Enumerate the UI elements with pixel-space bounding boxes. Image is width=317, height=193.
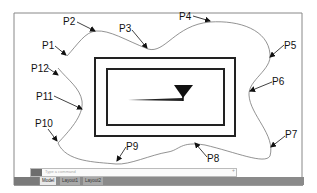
point-label-p6: P6: [250, 76, 285, 91]
svg-text:P3: P3: [119, 23, 132, 34]
inner-rectangle[interactable]: [107, 69, 224, 125]
tab-layout2[interactable]: Layout2: [83, 177, 103, 185]
tab-navigation-arrows[interactable]: [14, 177, 39, 185]
svg-text:P5: P5: [284, 40, 297, 51]
point-label-p8: P8: [195, 143, 220, 164]
drawing-canvas[interactable]: P1 P2 P3 P4 P5 P6 P7 P8 P9 P10 P11: [0, 0, 317, 193]
point-label-p9: P9: [117, 141, 139, 161]
command-options-button[interactable]: [31, 169, 42, 176]
svg-text:P12: P12: [31, 63, 49, 74]
tab-model[interactable]: Model: [40, 177, 56, 185]
svg-text:P10: P10: [35, 118, 53, 129]
svg-text:P6: P6: [272, 76, 285, 87]
tab-layout1[interactable]: Layout1: [60, 177, 80, 185]
point-label-p5: P5: [270, 40, 297, 57]
point-label-p11: P11: [36, 91, 82, 109]
command-expand-icon[interactable]: +: [232, 167, 235, 173]
point-label-p3: P3: [119, 23, 147, 48]
command-line[interactable]: Type a command +: [30, 168, 237, 177]
command-input[interactable]: Type a command: [45, 168, 76, 176]
point-label-p7: P7: [271, 129, 298, 147]
svg-text:P8: P8: [207, 153, 220, 164]
point-label-p2: P2: [63, 16, 95, 31]
leader-line[interactable]: [128, 98, 183, 101]
point-label-p1: P1: [42, 40, 66, 55]
svg-text:P11: P11: [36, 91, 53, 102]
svg-text:P7: P7: [285, 129, 298, 140]
point-label-p10: P10: [35, 118, 57, 141]
svg-text:P2: P2: [63, 16, 76, 27]
svg-text:P1: P1: [42, 40, 55, 51]
svg-text:P4: P4: [179, 11, 192, 22]
layout-tab-bar: Model Layout1 Layout2: [14, 177, 304, 185]
svg-text:P9: P9: [126, 141, 139, 152]
spline-curve[interactable]: [58, 22, 271, 164]
point-label-p12: P12: [31, 63, 58, 75]
